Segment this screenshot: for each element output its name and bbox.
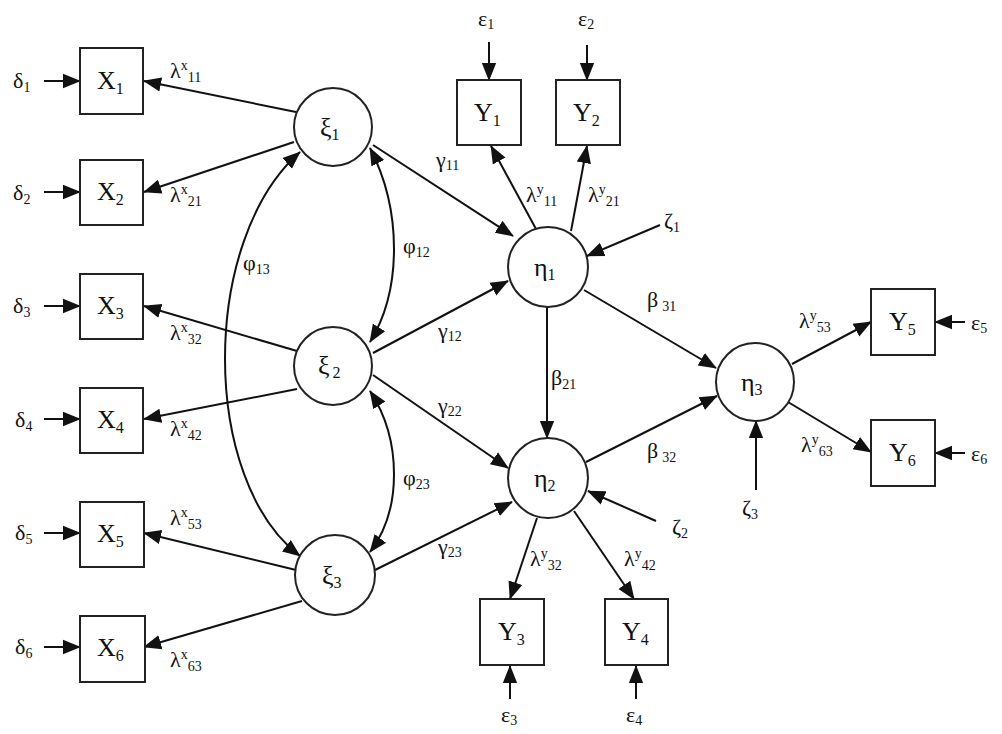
node-x6: X6 [80,616,145,682]
svg-text:λy32: λy32 [530,546,562,573]
arrow-phi23 [370,391,394,552]
svg-text:γ11: γ11 [435,147,459,173]
svg-text:γ12: γ12 [437,318,462,344]
arrow-zeta2-eta2 [588,491,656,521]
arrow-xi2-x4 [144,389,297,419]
gamma-labels: γ11 γ12 γ22 γ23 [435,147,462,560]
svg-text:δ6: δ6 [15,634,32,661]
svg-text:ε4: ε4 [626,702,642,728]
node-xi1: ξ1 [294,88,372,166]
sem-path-diagram: X1 X2 X3 X4 X5 X6 δ1 δ2 δ3 δ4 δ5 δ6 [0,0,1002,734]
node-y4: Y4 [605,599,668,665]
svg-text:λx42: λx42 [170,416,202,443]
arrow-eta1-y2 [571,146,587,231]
node-eta2: η2 [508,438,588,518]
node-eta3: η3 [716,343,794,421]
svg-text:ζ3: ζ3 [742,495,758,522]
node-y6: Y6 [871,420,935,486]
svg-text:ε3: ε3 [501,702,517,728]
node-x3: X3 [80,274,143,339]
svg-text:ε6: ε6 [971,441,987,467]
arrow-xi1-x1 [144,81,296,112]
svg-text:φ13: φ13 [243,250,270,277]
svg-text:λy21: λy21 [588,182,620,209]
svg-text:λx32: λx32 [170,320,202,347]
svg-text:ε5: ε5 [971,310,987,336]
svg-text:δ1: δ1 [13,68,30,95]
arrow-xi3-x6 [144,601,302,647]
svg-text:β32: β32 [647,438,676,465]
svg-text:λx21: λx21 [170,182,202,209]
node-x5: X5 [80,502,144,567]
arrow-phi13 [225,152,300,556]
svg-text:φ12: φ12 [403,233,430,260]
svg-text:ε2: ε2 [578,6,594,32]
node-x1: X1 [80,48,143,114]
svg-text:λx11: λx11 [170,58,201,85]
svg-text:γ23: γ23 [437,534,462,560]
node-eta1: η1 [508,227,588,307]
svg-text:δ4: δ4 [15,407,32,434]
arrow-xi2-x3 [144,306,297,351]
svg-text:λy53: λy53 [799,308,831,335]
node-x4: X4 [80,388,143,453]
x-indicators: X1 X2 X3 X4 X5 X6 [80,48,145,682]
arrow-phi12 [370,148,394,342]
node-xi2: ξ2 [294,327,372,405]
y-indicators: Y1 Y2 Y3 Y4 Y5 Y6 [457,80,935,665]
node-xi3: ξ3 [295,535,375,615]
svg-text:δ5: δ5 [15,520,32,547]
svg-text:ε1: ε1 [478,6,494,32]
svg-text:λx63: λx63 [170,647,202,674]
node-x2: X2 [80,160,143,225]
svg-text:δ2: δ2 [13,180,30,207]
svg-text:λy11: λy11 [526,182,557,209]
svg-text:δ3: δ3 [13,293,30,320]
svg-text:β31: β31 [647,287,676,314]
lambda-x-labels: λx11 λx21 λx32 λx42 λx53 λx63 [170,58,202,674]
svg-text:λy63: λy63 [801,432,833,459]
node-y5: Y5 [871,289,935,355]
node-y3: Y3 [480,599,544,665]
arrow-zeta1-eta1 [587,225,660,256]
exogenous-latents: ξ1 ξ2 ξ3 [294,88,375,615]
delta-labels: δ1 δ2 δ3 δ4 δ5 δ6 [13,68,32,661]
beta-labels: β21 β31 β32 [551,287,676,465]
arrow-xi3-x5 [144,533,296,570]
node-y1: Y1 [457,80,521,145]
svg-text:β21: β21 [551,365,576,392]
svg-text:λx53: λx53 [170,505,202,532]
svg-text:λy42: λy42 [624,546,656,573]
svg-text:ζ1: ζ1 [664,208,680,235]
node-y2: Y2 [556,80,620,145]
svg-text:γ22: γ22 [437,393,462,419]
svg-text:ζ2: ζ2 [672,514,688,541]
svg-text:φ23: φ23 [403,465,430,492]
